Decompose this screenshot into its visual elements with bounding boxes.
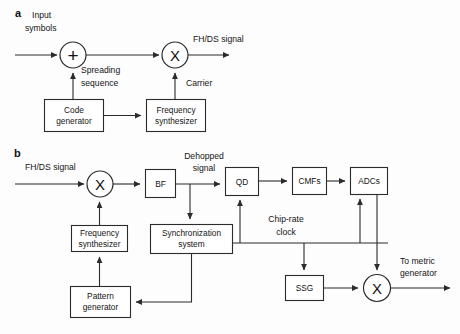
panel-a-input-label-line1: Input bbox=[32, 10, 52, 20]
chip-rate-clock-label-line1: Chip-rate bbox=[268, 214, 304, 224]
panel-b-input-label: FH/DS signal bbox=[25, 162, 76, 172]
dehopped-signal-label-line2: signal bbox=[193, 163, 216, 173]
cmfs-label: CMFs bbox=[298, 176, 320, 186]
frequency-synthesizer-b-label-line1: Frequency bbox=[80, 228, 120, 238]
figure-canvas: a Input symbols + X FH/DS signal Code ge… bbox=[0, 0, 460, 334]
adcs-label: ADCs bbox=[358, 176, 380, 186]
panel-b-output-mixer-glyph: X bbox=[372, 280, 382, 297]
bf-label: BF bbox=[155, 179, 166, 189]
pattern-generator-label-line2: generator bbox=[83, 302, 119, 312]
spreading-sequence-label-line1: Spreading bbox=[81, 65, 120, 75]
code-generator-label-line2: generator bbox=[56, 116, 92, 126]
code-generator-label-line1: Code bbox=[64, 105, 84, 115]
qd-label: QD bbox=[236, 177, 248, 187]
adder-glyph: + bbox=[67, 45, 78, 66]
panel-b-letter: b bbox=[14, 147, 21, 159]
synchronization-system-label-line1: Synchronization bbox=[162, 228, 221, 238]
frequency-synthesizer-a-label-line1: Frequency bbox=[156, 105, 196, 115]
panel-b-front-mixer-glyph: X bbox=[95, 176, 105, 193]
chip-rate-clock-label-line2: clock bbox=[276, 227, 296, 237]
pattern-generator-label-line1: Pattern bbox=[87, 291, 114, 301]
dehopped-signal-label-line1: Dehopped bbox=[184, 151, 224, 161]
synchronization-system-label-line2: system bbox=[178, 239, 204, 249]
panel-a-input-label-line2: symbols bbox=[25, 23, 57, 33]
panel-a-output-label: FH/DS signal bbox=[193, 34, 244, 44]
carrier-label: Carrier bbox=[186, 78, 212, 88]
block-diagram: a Input symbols + X FH/DS signal Code ge… bbox=[0, 0, 460, 334]
spreading-sequence-label-line2: sequence bbox=[81, 78, 118, 88]
to-metric-generator-label-line2: generator bbox=[400, 268, 437, 278]
ssg-label: SSG bbox=[296, 283, 314, 293]
to-metric-generator-label-line1: To metric bbox=[400, 256, 436, 266]
frequency-synthesizer-a-label-line2: synthesizer bbox=[155, 116, 197, 126]
panel-a-letter: a bbox=[15, 7, 22, 19]
frequency-synthesizer-b-label-line2: synthesizer bbox=[79, 239, 121, 249]
panel-a-mixer-glyph: X bbox=[170, 47, 180, 64]
wire-synchronization-to-pattern-generator bbox=[136, 254, 192, 303]
